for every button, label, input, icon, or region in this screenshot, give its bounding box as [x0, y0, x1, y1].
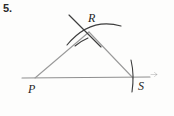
ray-arrow-right-icon: [151, 73, 157, 77]
compass-arc-through-R: [67, 24, 121, 45]
compass-arc-straight-stroke: [69, 15, 101, 47]
vertex-label-r: R: [88, 12, 95, 24]
vertex-label-p: P: [28, 83, 35, 95]
construction-drawing: [0, 0, 174, 116]
triangle-side-PR: [35, 32, 89, 78]
triangle-side-RS: [89, 32, 133, 78]
base-line-segment: [22, 77, 150, 78]
vertex-label-s: S: [138, 80, 144, 92]
geometry-figure: 5. P R S: [0, 0, 174, 116]
